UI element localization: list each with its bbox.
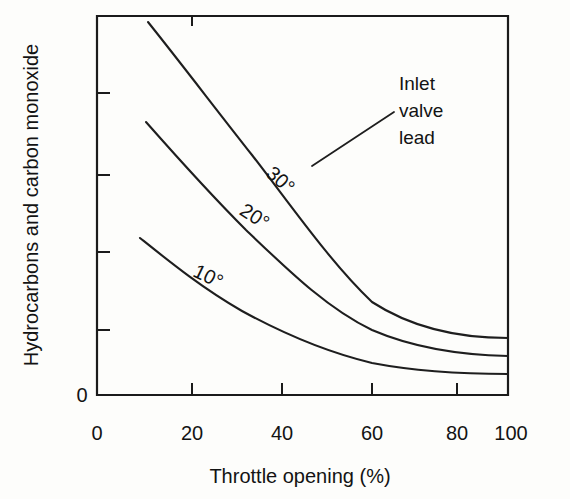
- x-tick-labels: 0 20 40 60 80 100: [91, 422, 527, 444]
- x-tick-label-100: 100: [494, 422, 527, 444]
- annotation-line-3: lead: [399, 127, 435, 148]
- x-tick-label-80: 80: [446, 422, 468, 444]
- chart-canvas: 0 20 40 60 80 100 0 Throttle opening (%)…: [0, 0, 570, 499]
- curve-30deg: [148, 22, 508, 338]
- x-axis-ticks: [192, 383, 457, 395]
- annotation-line-1: Inlet: [399, 73, 436, 94]
- x-tick-label-0: 0: [91, 422, 102, 444]
- axes-frame: [97, 16, 508, 395]
- y-origin-label: 0: [76, 384, 87, 406]
- y-axis-title: Hydrocarbons and carbon monoxide: [20, 44, 42, 366]
- y-axis-ticks: [97, 93, 110, 330]
- annotation-text-block: Inlet valve lead: [399, 73, 443, 148]
- annotation-leader-line: [312, 112, 394, 166]
- curve-label-10deg: 10°: [0, 0, 15, 4]
- curve-label-30deg: 30°: [262, 162, 299, 199]
- chart-figure: 0 20 40 60 80 100 0 Throttle opening (%)…: [0, 0, 570, 499]
- x-tick-label-20: 20: [181, 422, 203, 444]
- curve-group: [140, 22, 508, 374]
- curve-10deg: [140, 238, 508, 374]
- curve-label-20deg: 20°: [236, 199, 273, 234]
- axis-left-top-right-bottom: [97, 16, 508, 395]
- x-tick-label-60: 60: [361, 422, 383, 444]
- x-tick-label-40: 40: [271, 422, 293, 444]
- annotation-line-2: valve: [399, 100, 443, 121]
- x-axis-title: Throttle opening (%): [209, 465, 390, 487]
